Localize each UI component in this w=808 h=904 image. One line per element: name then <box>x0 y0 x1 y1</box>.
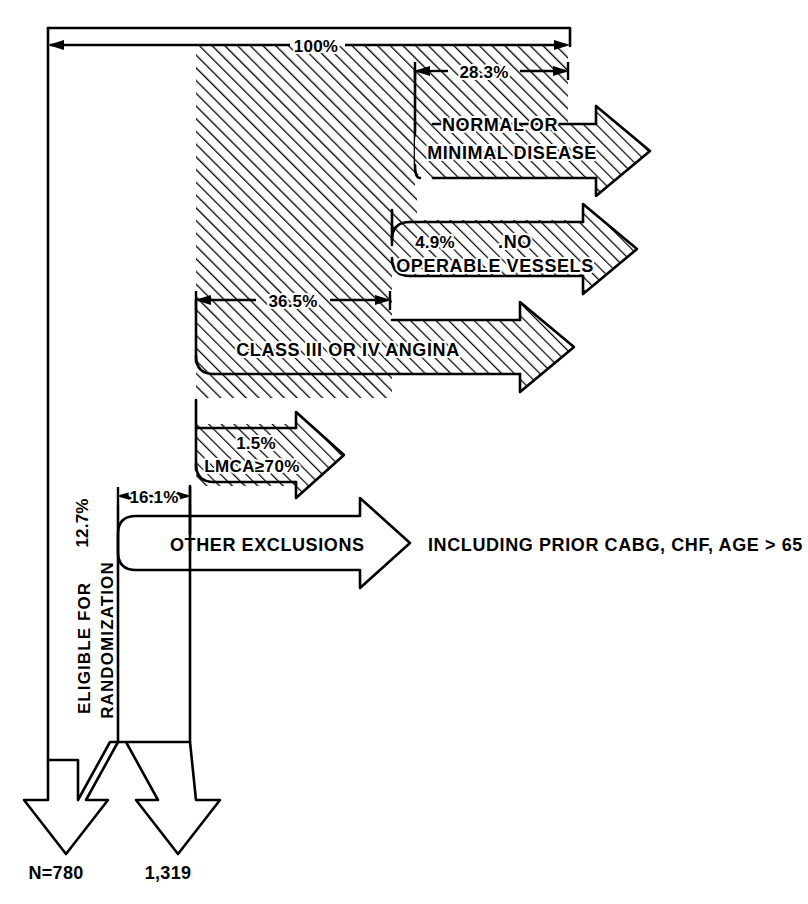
label-16-1-percent: 16.1% <box>129 488 178 507</box>
label-eligible-line2: RANDOMIZATION <box>98 561 117 719</box>
label-normal-line1: NORMAL OR <box>442 115 558 135</box>
flow-diagram-canvas: 100% 28.3% NORMAL OR MINIMAL DISEASE 4.9… <box>0 0 808 904</box>
label-n-780: N=780 <box>28 863 83 883</box>
label-1-5-percent: 1.5% <box>236 434 276 453</box>
label-n-1319: 1,319 <box>145 863 192 883</box>
label-no-operable-line2: OPERABLE VESSELS <box>396 256 594 276</box>
label-28-3-percent: 28.3% <box>459 63 508 82</box>
flow-diagram: 100% 28.3% NORMAL OR MINIMAL DISEASE 4.9… <box>0 0 808 904</box>
outcome-arrow-randomized <box>24 742 118 854</box>
label-other-exclusions: OTHER EXCLUSIONS <box>170 535 365 555</box>
label-no-operable-line1: .NO <box>498 232 532 252</box>
label-class-angina: CLASS III OR IV ANGINA <box>236 340 460 360</box>
label-4-9-percent: 4.9% <box>415 233 455 252</box>
label-including-note: INCLUDING PRIOR CABG, CHF, AGE > 65 <box>428 535 803 555</box>
label-100-percent: 100% <box>294 37 338 56</box>
label-eligible-line1: ELIGIBLE FOR <box>75 582 94 714</box>
label-36-5-percent: 36.5% <box>268 292 317 311</box>
label-normal-line2: MINIMAL DISEASE <box>427 143 597 163</box>
outcome-arrow-eligible-not-randomized <box>118 742 220 854</box>
label-lmca: LMCA≥70% <box>204 457 300 476</box>
label-12-7-percent: 12.7% <box>73 498 92 547</box>
